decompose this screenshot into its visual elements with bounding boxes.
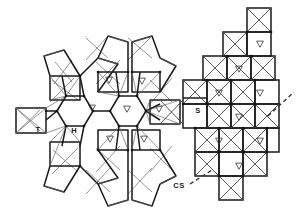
label-triangular-tunnel: T [36, 125, 41, 134]
label-shear-plane: CS [173, 181, 185, 190]
label-hexagonal-tunnel: H [71, 126, 77, 135]
label-square-tunnel: S [195, 106, 200, 115]
structure-diagram: H T S CS [0, 0, 301, 217]
diagram-canvas: H T S CS [0, 0, 301, 217]
